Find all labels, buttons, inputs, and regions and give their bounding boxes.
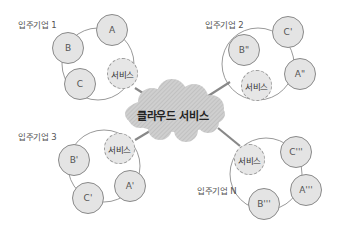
tenant-3-node-b: B' (58, 144, 90, 176)
tenant-1-service: 서비스 (107, 58, 138, 89)
tenant-n-label: 입주기업 N (197, 184, 236, 196)
tenant-n-node-a: A''' (290, 174, 322, 206)
tenant-3-service: 서비스 (104, 133, 135, 164)
tenant-2-node-b: B" (228, 34, 260, 66)
tenant-3-node-c: C' (72, 182, 104, 214)
tenant-3-node-a: A' (114, 170, 146, 202)
tenant-n-service: 서비스 (234, 144, 265, 175)
tenant-1-node-b: B (52, 32, 84, 64)
tenant-1-label: 입주기업 1 (18, 18, 56, 30)
cloud-label: 클라우드 서비스 (137, 107, 208, 123)
tenant-2-node-c: C' (272, 16, 304, 48)
tenant-2-label: 입주기업 2 (205, 18, 243, 30)
tenant-n-node-c: C''' (280, 136, 312, 168)
tenant-1-node-c: C (64, 68, 96, 100)
tenant-2-service: 서비스 (241, 70, 272, 101)
tenant-n-node-b: B''' (248, 188, 280, 220)
tenant-3-label: 입주기업 3 (18, 130, 56, 142)
tenant-1-node-a: A (96, 14, 128, 46)
tenant-2-node-a: A" (284, 58, 316, 90)
